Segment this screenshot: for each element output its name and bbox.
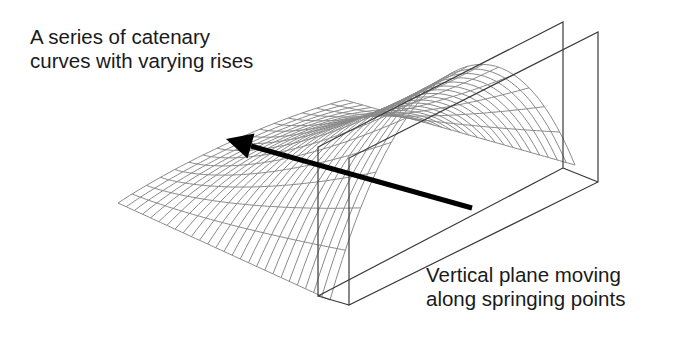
plane-label-line1: Vertical plane moving <box>426 263 625 287</box>
plane-1-outline <box>318 22 563 296</box>
catenary-label-line2: curves with varying rises <box>30 49 253 73</box>
plane-label-line2: along springing points <box>426 287 625 311</box>
vertical-plane-label: Vertical plane moving along springing po… <box>426 263 625 311</box>
catenary-curves-label: A series of catenary curves with varying… <box>30 25 253 73</box>
catenary-label-line1: A series of catenary <box>30 25 253 49</box>
